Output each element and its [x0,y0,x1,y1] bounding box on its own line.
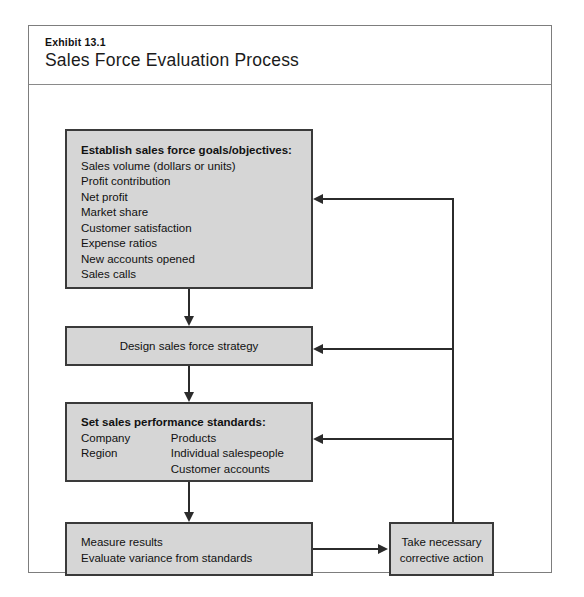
goal-item: Expense ratios [81,236,311,252]
arrowhead-feedback-to-goals [313,194,323,204]
standard-item: Products [171,431,311,447]
arrowhead-feedback-to-strategy [313,344,323,354]
connector-feedback-to-strategy [321,348,454,350]
goal-item: Sales calls [81,267,311,283]
node-establish-goals-heading: Establish sales force goals/objectives: [81,143,311,159]
arrowhead-feedback-to-standards [313,434,323,444]
arrowhead-measure-to-corrective [378,544,388,554]
goal-item: Sales volume (dollars or units) [81,159,311,175]
exhibit-number: Exhibit 13.1 [45,36,106,48]
standard-item: Company [81,431,171,447]
standards-column-left: Company Region [81,431,171,478]
connector-goals-to-strategy [188,289,190,317]
exhibit-title: Sales Force Evaluation Process [45,50,299,71]
node-corrective-action: Take necessary corrective action [389,522,494,576]
node-performance-standards-heading: Set sales performance standards: [81,415,311,431]
standard-item: Individual salespeople [171,446,311,462]
measure-line-1: Measure results [81,535,311,551]
goal-item: New accounts opened [81,252,311,268]
standard-item: Region [81,446,171,462]
arrowhead-goals-to-strategy [184,316,194,326]
arrowhead-strategy-to-standards [184,392,194,402]
exhibit-frame: Exhibit 13.1 Sales Force Evaluation Proc… [28,25,552,573]
goal-item: Profit contribution [81,174,311,190]
corrective-line-2: corrective action [391,550,492,566]
standards-columns: Company Region Products Individual sales… [81,431,311,478]
connector-strategy-to-standards [188,366,190,393]
corrective-text: Take necessary corrective action [391,524,492,566]
standards-column-right: Products Individual salespeople Customer… [171,431,311,478]
connector-measure-to-corrective [313,548,379,550]
connector-feedback-to-goals [321,198,454,200]
node-establish-goals: Establish sales force goals/objectives: … [65,129,313,289]
connector-feedback-rail [452,198,454,522]
exhibit-header: Exhibit 13.1 Sales Force Evaluation Proc… [29,26,551,85]
node-design-strategy-label: Design sales force strategy [67,328,311,364]
flowchart-diagram: Establish sales force goals/objectives: … [29,85,551,572]
goal-item: Customer satisfaction [81,221,311,237]
goal-item: Net profit [81,190,311,206]
node-performance-standards: Set sales performance standards: Company… [65,402,313,482]
goal-item: Market share [81,205,311,221]
arrowhead-standards-to-measure [184,512,194,522]
node-measure-results: Measure results Evaluate variance from s… [65,522,313,576]
node-design-strategy: Design sales force strategy [65,326,313,366]
corrective-line-1: Take necessary [391,534,492,550]
connector-feedback-to-standards [321,438,454,440]
measure-line-2: Evaluate variance from standards [81,551,311,567]
standard-item: Customer accounts [171,462,311,478]
connector-standards-to-measure [188,482,190,513]
